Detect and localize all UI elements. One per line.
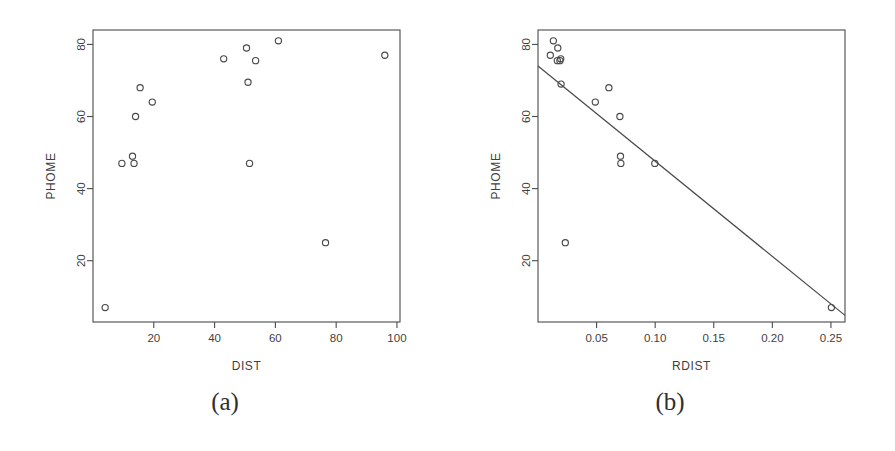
x-tick-label: 20 xyxy=(147,332,160,344)
figure-container: 2040608010020406080DISTPHOME (a) 0.050.1… xyxy=(0,0,895,451)
panel-b-caption: (b) xyxy=(445,388,895,416)
data-point xyxy=(547,52,553,58)
regression-line xyxy=(538,66,845,315)
y-tick-label: 20 xyxy=(75,254,87,267)
data-point xyxy=(562,240,568,246)
y-tick-label: 80 xyxy=(520,38,532,51)
y-tick-label: 40 xyxy=(75,182,87,195)
data-point xyxy=(245,79,251,85)
y-tick-label: 40 xyxy=(520,182,532,195)
data-point xyxy=(137,85,143,91)
data-point xyxy=(322,240,328,246)
data-point xyxy=(243,45,249,51)
data-point xyxy=(119,160,125,166)
y-axis-title: PHOME xyxy=(44,152,58,199)
x-tick-label: 80 xyxy=(330,332,343,344)
y-tick-label: 80 xyxy=(75,38,87,51)
data-point xyxy=(132,113,138,119)
scatter-plot-dist: 2040608010020406080DISTPHOME xyxy=(0,0,450,390)
data-point xyxy=(253,58,259,64)
x-tick-label: 0.05 xyxy=(585,332,607,344)
y-axis-title: PHOME xyxy=(489,152,503,199)
data-point xyxy=(246,160,252,166)
x-tick-label: 0.10 xyxy=(644,332,666,344)
x-axis-title: DIST xyxy=(232,359,262,373)
data-point xyxy=(617,113,623,119)
data-point xyxy=(555,45,561,51)
data-point xyxy=(828,304,834,310)
data-point xyxy=(221,56,227,62)
x-tick-label: 0.25 xyxy=(820,332,842,344)
data-point xyxy=(129,153,135,159)
x-tick-label: 100 xyxy=(387,332,406,344)
y-tick-label: 60 xyxy=(75,110,87,123)
panel-a: 2040608010020406080DISTPHOME (a) xyxy=(0,0,450,451)
data-point xyxy=(149,99,155,105)
panel-b: 0.050.100.150.200.2520406080RDISTPHOME (… xyxy=(445,0,895,451)
x-tick-label: 0.20 xyxy=(761,332,783,344)
y-tick-label: 60 xyxy=(520,110,532,123)
plot-a-content: 2040608010020406080DISTPHOME xyxy=(44,30,407,373)
scatter-plot-rdist: 0.050.100.150.200.2520406080RDISTPHOME xyxy=(445,0,895,390)
data-point xyxy=(131,160,137,166)
data-point xyxy=(592,99,598,105)
data-point xyxy=(617,153,623,159)
data-point xyxy=(382,52,388,58)
data-point xyxy=(606,85,612,91)
x-tick-label: 40 xyxy=(208,332,221,344)
x-tick-label: 0.15 xyxy=(703,332,725,344)
panel-a-caption: (a) xyxy=(0,388,450,416)
plot-b-content: 0.050.100.150.200.2520406080RDISTPHOME xyxy=(489,30,845,373)
x-axis-title: RDIST xyxy=(672,359,711,373)
data-point xyxy=(618,160,624,166)
x-tick-label: 60 xyxy=(269,332,282,344)
plot-frame xyxy=(93,30,400,322)
y-tick-label: 20 xyxy=(520,254,532,267)
data-point xyxy=(102,304,108,310)
data-point xyxy=(275,38,281,44)
data-point xyxy=(550,38,556,44)
